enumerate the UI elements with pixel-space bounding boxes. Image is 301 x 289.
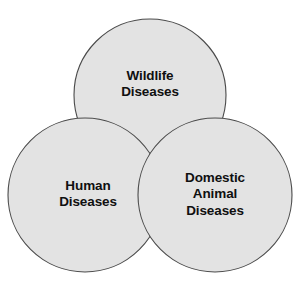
venn-diagram-canvas: [0, 0, 301, 289]
label-human-diseases: Human Diseases: [38, 178, 138, 211]
venn-diagram: Wildlife Diseases Human Diseases Domesti…: [0, 0, 301, 289]
label-wildlife-diseases: Wildlife Diseases: [100, 68, 200, 101]
label-domestic-animal-diseases: Domestic Animal Diseases: [165, 170, 265, 219]
